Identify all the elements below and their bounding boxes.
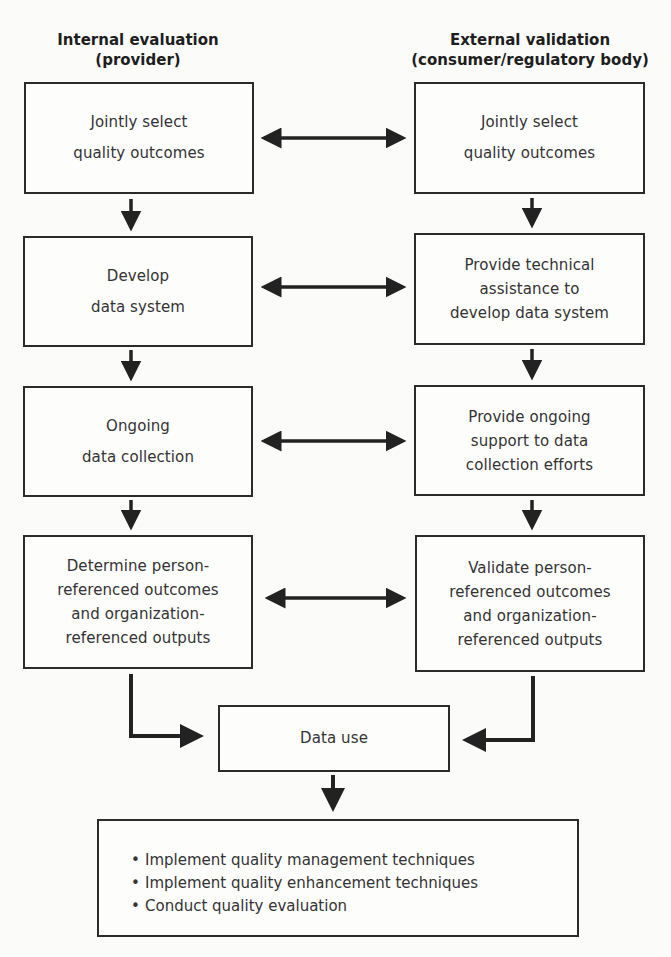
step-text: and organization- [71, 602, 204, 626]
step-text: Validate person- [468, 556, 592, 580]
step-text: referenced outputs [65, 626, 210, 650]
step-text: referenced outcomes [449, 580, 610, 604]
step-text: Jointly select [481, 107, 578, 138]
step-text: quality outcomes [73, 138, 204, 169]
right-step-technical-assistance: Provide technical assistance to develop … [414, 233, 645, 345]
right-step-validate-outcomes: Validate person- referenced outcomes and… [415, 535, 645, 672]
step-text: Determine person- [67, 554, 210, 578]
right-step-ongoing-support: Provide ongoing support to data collecti… [414, 385, 645, 496]
left-step-determine-outcomes: Determine person- referenced outcomes an… [23, 535, 253, 669]
quality-actions-box: Implement quality management techniques … [97, 819, 579, 937]
external-validation-subtitle: (consumer/regulatory body) [390, 50, 670, 70]
step-text: Provide technical [464, 253, 594, 277]
elbow-arrow-icon [466, 676, 533, 740]
step-text: support to data [471, 429, 588, 453]
step-text: collection efforts [466, 453, 593, 477]
step-text: referenced outputs [457, 628, 602, 652]
data-use-box: Data use [218, 705, 450, 772]
step-text: data system [91, 292, 185, 323]
internal-evaluation-title: Internal evaluation [18, 30, 258, 50]
external-validation-title: External validation [390, 30, 670, 50]
data-use-label: Data use [300, 728, 368, 749]
quality-actions-list: Implement quality management techniques … [131, 849, 478, 918]
step-text: quality outcomes [464, 138, 595, 169]
step-text: Provide ongoing [468, 405, 590, 429]
elbow-arrow-icon [131, 674, 200, 736]
quality-action-item: Conduct quality evaluation [131, 895, 478, 918]
internal-evaluation-header: Internal evaluation (provider) [18, 30, 258, 70]
quality-action-item: Implement quality enhancement techniques [131, 872, 478, 895]
step-text: Ongoing [106, 411, 170, 442]
step-text: and organization- [463, 604, 596, 628]
left-step-select-outcomes: Jointly select quality outcomes [24, 82, 254, 194]
step-text: referenced outcomes [57, 578, 218, 602]
left-step-develop-data-system: Develop data system [23, 236, 253, 347]
internal-evaluation-subtitle: (provider) [18, 50, 258, 70]
step-text: data collection [82, 442, 194, 473]
quality-action-item: Implement quality management techniques [131, 849, 478, 872]
left-step-ongoing-data-collection: Ongoing data collection [23, 386, 253, 497]
right-step-select-outcomes: Jointly select quality outcomes [414, 82, 645, 194]
step-text: develop data system [450, 301, 609, 325]
step-text: assistance to [480, 277, 580, 301]
step-text: Jointly select [91, 107, 188, 138]
step-text: Develop [107, 261, 169, 292]
external-validation-header: External validation (consumer/regulatory… [390, 30, 670, 70]
